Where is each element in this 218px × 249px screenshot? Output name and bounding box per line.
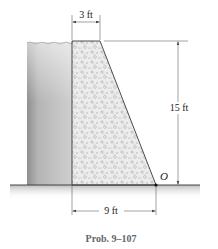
label-top-width: 3 ft [79, 9, 93, 20]
label-base-width: 9 ft [104, 205, 118, 216]
figure-caption: Prob. 9–107 [86, 233, 137, 244]
water-body [27, 42, 72, 185]
label-point-o: O [160, 170, 168, 182]
concrete-dam [72, 41, 156, 185]
dam-diagram: 3 ft 15 ft O 9 ft Prob. 9–107 [0, 0, 218, 249]
ground-shadow [10, 185, 200, 199]
label-height: 15 ft [170, 102, 189, 113]
